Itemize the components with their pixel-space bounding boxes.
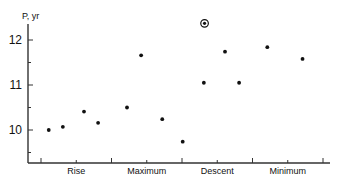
data-point-descent (202, 81, 206, 85)
data-points (47, 20, 305, 144)
x-ticks: RiseMaximumDescentMinimum (41, 158, 323, 176)
x-category-label-minimum: Minimum (269, 166, 306, 176)
x-category-label-maximum: Maximum (127, 166, 166, 176)
data-point-minimum (301, 57, 305, 61)
y-tick-label: 11 (10, 78, 23, 92)
y-axis: P, yr 121110 (9, 11, 40, 163)
data-point-descent (223, 50, 227, 54)
scatter-chart: P, yr 121110 RiseMaximumDescentMinimum (0, 0, 337, 180)
y-ticks: 121110 (9, 33, 33, 153)
data-point-rise (61, 125, 65, 129)
data-point-rise (82, 110, 86, 114)
data-point-maximum (160, 117, 164, 121)
y-axis-label: P, yr (22, 11, 39, 21)
data-point-rise (96, 121, 100, 125)
data-point-maximum (181, 140, 185, 144)
x-category-label-rise: Rise (67, 166, 85, 176)
data-point-maximum (125, 106, 129, 110)
data-point-rise (47, 128, 51, 132)
data-point-descent (237, 81, 241, 85)
data-point-descent (203, 22, 206, 25)
data-point-maximum (139, 53, 143, 57)
y-tick-label: 10 (9, 123, 23, 137)
x-axis: RiseMaximumDescentMinimum (28, 158, 330, 176)
data-point-minimum (265, 45, 269, 49)
x-category-label-descent: Descent (201, 166, 235, 176)
y-tick-label: 12 (9, 33, 23, 47)
